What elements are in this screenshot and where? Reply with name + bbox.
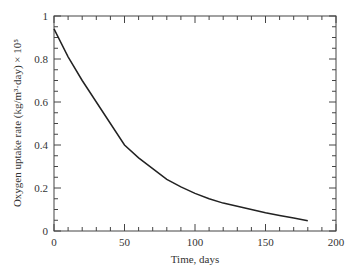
x-tick-label: 0 <box>51 236 57 248</box>
y-tick-label: 1 <box>43 10 49 22</box>
plot-frame <box>54 16 336 231</box>
x-tick-label: 50 <box>119 236 131 248</box>
y-tick-label: 0.4 <box>34 139 48 151</box>
oxygen-uptake-chart: 050100150200 00.20.40.60.81 Time, days O… <box>0 0 352 275</box>
data-line <box>54 29 308 221</box>
x-tick-label: 200 <box>328 236 345 248</box>
x-axis-title: Time, days <box>171 253 220 265</box>
x-tick-labels: 050100150200 <box>51 236 345 248</box>
axis-ticks <box>54 16 336 231</box>
y-tick-labels: 00.20.40.60.81 <box>34 10 48 237</box>
y-tick-label: 0 <box>43 225 49 237</box>
x-tick-label: 100 <box>187 236 204 248</box>
y-tick-label: 0.6 <box>34 96 48 108</box>
y-tick-label: 0.2 <box>34 182 48 194</box>
x-tick-label: 150 <box>257 236 274 248</box>
y-axis-title: Oxygen uptake rate (kg/m³·day) × 10⁵ <box>11 39 24 207</box>
y-tick-label: 0.8 <box>34 53 48 65</box>
